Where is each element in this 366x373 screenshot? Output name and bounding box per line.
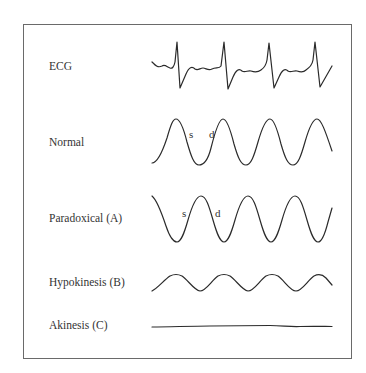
ecg-waveform [152,42,332,89]
paradoxical-diastole-label: d [215,207,221,219]
normal-systole-label: s [189,128,193,140]
paradoxical-waveform [152,196,332,242]
paradoxical-systole-label: s [182,207,186,219]
hypokinesis-waveform [152,275,332,292]
akinesis-waveform [152,326,332,328]
normal-diastole-label: d [209,128,215,140]
waveforms: s d s d [0,0,366,373]
normal-waveform [152,119,332,165]
